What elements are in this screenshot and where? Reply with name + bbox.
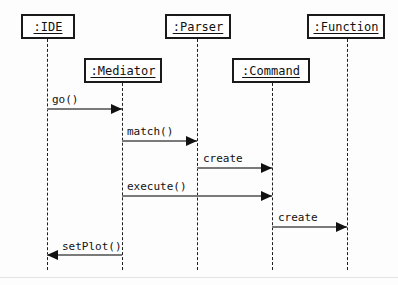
lifeline-function: [347, 39, 348, 270]
participant-label-parser: :Parser: [173, 20, 224, 34]
participant-label-function: :Function: [313, 20, 378, 34]
participant-box-mediator[interactable]: :Mediator: [84, 58, 162, 83]
participant-box-parser[interactable]: :Parser: [165, 14, 231, 39]
participant-label-command: :Command: [242, 64, 300, 78]
message-label-msg-create-command: create: [203, 152, 243, 165]
message-label-msg-execute: execute(): [127, 180, 187, 193]
arrowhead-icon-msg-go: [111, 104, 122, 114]
arrowhead-icon-msg-setplot: [47, 250, 58, 260]
lifeline-parser: [197, 39, 198, 270]
participant-label-ide: :IDE: [34, 20, 63, 34]
participant-box-ide[interactable]: :IDE: [21, 14, 75, 39]
sequence-diagram: :IDE:Mediator:Parser:Command:Functiongo(…: [0, 0, 398, 285]
message-line-msg-setplot[interactable]: [47, 254, 122, 256]
arrowhead-icon-msg-create-command: [261, 163, 272, 173]
message-label-msg-setplot: setPlot(): [62, 240, 122, 253]
message-label-msg-create-function: create: [278, 211, 318, 224]
lifeline-command: [272, 83, 273, 270]
message-label-msg-go: go(): [52, 93, 79, 106]
page-rule-divider: [0, 277, 398, 278]
arrowhead-icon-msg-match: [186, 136, 197, 146]
lifeline-ide: [47, 39, 48, 270]
participant-box-function[interactable]: :Function: [307, 14, 385, 39]
message-line-msg-execute[interactable]: [122, 195, 272, 197]
arrowhead-icon-msg-create-function: [336, 222, 347, 232]
arrowhead-icon-msg-execute: [261, 191, 272, 201]
lifeline-mediator: [122, 83, 123, 270]
participant-label-mediator: :Mediator: [90, 64, 155, 78]
message-label-msg-match: match(): [127, 125, 173, 138]
participant-box-command[interactable]: :Command: [232, 58, 310, 83]
